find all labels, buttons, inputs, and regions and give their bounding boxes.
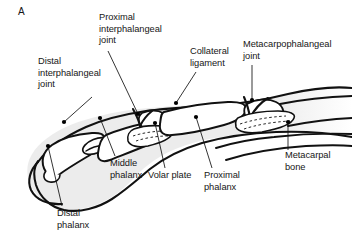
label-metacarpal-bone: Metacarpal bone: [285, 150, 331, 173]
label-metacarpophalangeal-joint: Metacarpophalangeal joint: [243, 39, 331, 62]
leader-distal-interphalangeal-joint: [64, 97, 92, 122]
leader-proximal-interphalangeal-joint: [108, 51, 138, 114]
label-proximal-phalanx: Proximal phalanx: [204, 170, 240, 193]
label-distal-interphalangeal-joint: Distal interphalangeal joint: [38, 56, 101, 91]
dot-proximal-phalanx: [194, 115, 198, 119]
dot-metacarpophalangeal-joint: [250, 98, 254, 102]
label-proximal-interphalangeal-joint: Proximal interphalangeal joint: [99, 12, 162, 47]
dot-middle-phalanx: [98, 116, 102, 120]
figure-panel-a: A Distal interphalangeal joint Proximal …: [0, 0, 352, 247]
dot-distal-phalanx: [46, 144, 50, 148]
label-middle-phalanx: Middle phalanx: [110, 158, 142, 181]
leader-collateral-ligament: [176, 72, 196, 103]
dot-distal-interphalangeal-joint: [62, 120, 66, 124]
dot-volar-plate: [153, 121, 157, 125]
dot-metacarpal-bone: [286, 120, 290, 124]
dot-collateral-ligament: [174, 101, 178, 105]
dot-proximal-interphalangeal-joint: [136, 112, 140, 116]
label-volar-plate: Volar plate: [148, 170, 191, 182]
panel-letter: A: [18, 6, 25, 17]
palm-fold-lines: [216, 134, 352, 160]
label-collateral-ligament: Collateral ligament: [190, 46, 229, 69]
label-distal-phalanx: Distal phalanx: [57, 208, 89, 231]
finger-anatomy-illustration: [0, 0, 352, 247]
